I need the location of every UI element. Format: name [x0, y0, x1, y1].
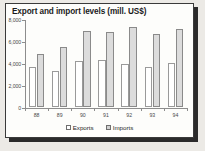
x-axis-tick-label: 93 — [149, 112, 155, 118]
x-axis-tick — [94, 108, 95, 111]
legend-swatch-imports — [106, 125, 111, 130]
y-axis-tick-label: 6,000 — [9, 39, 21, 45]
x-axis-tick — [164, 108, 165, 111]
chart-title: Export and import levels (mill. US$) — [12, 7, 146, 16]
y-axis-tick — [22, 64, 26, 65]
bar-imports-88 — [37, 54, 45, 107]
chart-legend: Exports Imports — [6, 124, 193, 131]
legend-item-exports: Exports — [66, 124, 94, 131]
bar-group — [121, 19, 137, 107]
bar-group — [168, 19, 184, 107]
bar-exports-89 — [52, 71, 60, 107]
legend-label-exports: Exports — [73, 124, 94, 131]
chart-panel: Export and import levels (mill. US$) 02,… — [5, 3, 194, 138]
x-axis-tick — [71, 108, 72, 111]
x-axis-tick — [48, 108, 49, 111]
bar-imports-89 — [60, 47, 68, 108]
y-axis-tick-label: 0 — [18, 105, 21, 111]
bar-group — [75, 19, 91, 107]
y-axis-tick-label: 4,000 — [9, 61, 21, 67]
bar-imports-90 — [83, 31, 91, 107]
legend-label-imports: Imports — [113, 124, 134, 131]
bar-exports-91 — [98, 60, 106, 107]
y-axis-tick — [22, 42, 26, 43]
y-axis-tick-label: 8,000 — [9, 17, 21, 23]
x-axis-tick-label: 88 — [34, 112, 40, 118]
bar-imports-92 — [129, 27, 137, 107]
bar-group — [145, 19, 161, 107]
x-axis-tick-label: 90 — [80, 112, 86, 118]
x-axis-tick-label: 91 — [103, 112, 109, 118]
x-axis-tick-label: 92 — [126, 112, 132, 118]
legend-item-imports: Imports — [106, 124, 134, 131]
y-axis-tick-label: 2,000 — [9, 83, 21, 89]
x-axis-tick — [25, 108, 26, 111]
bar-exports-93 — [145, 67, 153, 107]
bar-group — [52, 19, 68, 107]
bar-exports-88 — [29, 67, 37, 107]
bar-exports-94 — [168, 63, 176, 107]
bar-exports-92 — [121, 64, 129, 107]
bar-imports-91 — [106, 32, 114, 107]
y-axis-tick — [22, 86, 26, 87]
x-axis-line — [25, 108, 187, 109]
bar-imports-93 — [153, 34, 161, 107]
x-axis-tick-label: 89 — [57, 112, 63, 118]
bar-group — [98, 19, 114, 107]
x-axis-tick — [141, 108, 142, 111]
x-axis-tick-label: 94 — [173, 112, 179, 118]
bar-imports-94 — [176, 29, 184, 107]
plot-area: 02,0004,0006,0008,000 88899091929394 — [25, 20, 187, 108]
x-axis-tick — [118, 108, 119, 111]
y-axis-tick — [22, 20, 26, 21]
bar-exports-90 — [75, 61, 83, 107]
bar-group — [29, 19, 45, 107]
x-axis-tick — [187, 108, 188, 111]
chart-screenshot: Export and import levels (mill. US$) 02,… — [0, 0, 205, 151]
legend-swatch-exports — [66, 125, 71, 130]
